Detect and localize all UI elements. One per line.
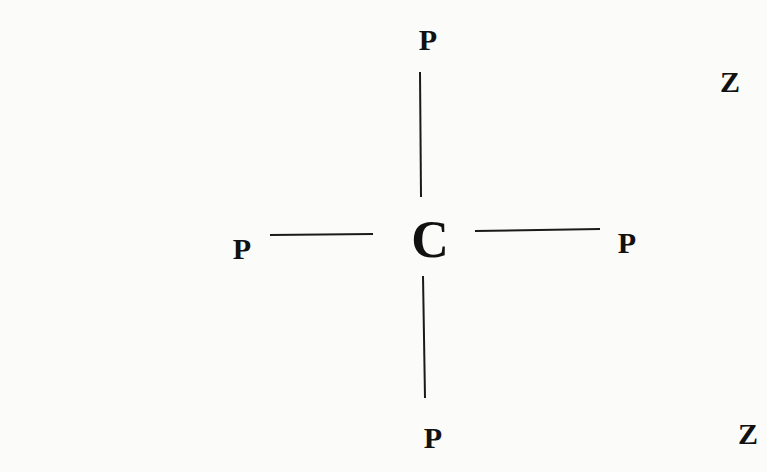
label-z-lower: Z <box>738 419 758 449</box>
atom-p-top: P <box>419 25 437 55</box>
atom-p-bottom: P <box>424 423 442 453</box>
molecule-diagram: C P P P P Z Z <box>0 0 767 472</box>
atom-p-left: P <box>233 234 251 264</box>
bond-line-top <box>420 72 421 197</box>
label-z-upper: Z <box>720 67 740 97</box>
atom-p-right: P <box>618 228 636 258</box>
bonds-layer <box>0 0 767 472</box>
bond-line-right <box>475 229 600 231</box>
center-atom-c: C <box>411 214 449 266</box>
bond-line-bottom <box>423 276 425 398</box>
bond-line-left <box>270 234 373 235</box>
